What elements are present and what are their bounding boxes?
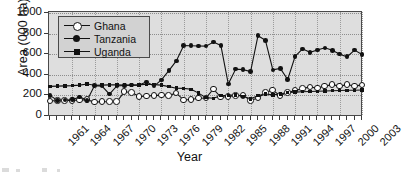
legend-label: Uganda [94,46,131,58]
data-point-tanzania [55,98,60,103]
data-point-ghana [151,92,158,99]
data-point-tanzania [174,59,179,64]
legend-item-ghana: Ghana [63,20,145,32]
data-point-ghana [188,96,195,103]
data-point-tanzania [48,93,53,98]
data-point-tanzania [159,78,164,83]
filled-square-icon [74,49,80,55]
data-point-tanzania [219,43,224,48]
data-point-uganda [123,83,126,86]
data-point-ghana [106,98,113,105]
data-point-uganda [331,89,334,92]
x-tick-mark [86,116,87,120]
x-tick-mark [302,116,303,120]
data-point-tanzania [248,69,253,74]
scan-artifact [2,168,64,173]
data-point-uganda [279,92,282,95]
legend-label: Ghana [94,20,126,32]
x-axis-title: Year [0,150,379,164]
data-point-uganda [249,97,252,100]
data-point-ghana [210,86,217,93]
data-point-tanzania [196,44,201,49]
data-point-ghana [91,99,98,106]
x-tick-mark [227,116,228,120]
y-tick-label: 800 [0,27,42,39]
data-point-uganda [234,93,237,96]
data-point-tanzania [278,66,283,71]
legend-item-tanzania: Tanzania [63,33,145,45]
x-tick-mark [257,116,258,120]
legend: Ghana Tanzania Uganda [58,16,150,58]
data-point-uganda [204,96,207,99]
data-point-ghana [344,81,351,88]
data-point-uganda [85,82,88,85]
data-point-uganda [100,83,103,86]
data-point-tanzania [226,82,231,87]
data-point-uganda [152,83,155,86]
y-tick-label: 1000 [0,6,42,18]
data-point-uganda [160,83,163,86]
data-point-tanzania [285,77,290,82]
data-point-uganda [56,84,59,87]
data-point-tanzania [308,50,313,55]
data-point-tanzania [315,48,320,53]
data-point-uganda [48,85,51,88]
x-tick-label: 1991 [288,122,314,148]
x-tick-label: 1982 [221,122,247,148]
data-point-tanzania [211,40,216,45]
data-point-tanzania [330,48,335,53]
data-point-uganda [353,89,356,92]
data-point-uganda [338,89,341,92]
x-tick-label: 1976 [177,122,203,148]
x-tick-mark [346,116,347,120]
x-tick-label: 1988 [266,122,292,148]
x-tick-label: 1979 [199,122,225,148]
data-point-ghana [180,97,187,104]
x-tick-label: 1961 [65,122,91,148]
data-point-uganda [137,83,140,86]
data-point-uganda [308,90,311,93]
x-tick-mark [79,116,80,120]
data-point-uganda [256,94,259,97]
data-point-tanzania [293,54,298,59]
data-point-uganda [286,91,289,94]
data-point-ghana [136,93,143,100]
x-tick-mark [175,116,176,120]
x-tick-mark [71,116,72,120]
x-tick-label: 1994 [310,122,336,148]
x-tick-mark [331,116,332,120]
x-tick-mark [242,116,243,120]
y-tick-label: 600 [0,47,42,59]
legend-label: Tanzania [94,33,136,45]
x-tick-label: 2000 [355,122,381,148]
data-point-ghana [359,82,366,89]
x-tick-mark [56,116,57,120]
x-tick-mark [131,116,132,120]
x-tick-mark [287,116,288,120]
x-tick-mark [205,116,206,120]
data-point-uganda [219,94,222,97]
data-point-tanzania [360,52,365,57]
y-tick-label: 0 [0,109,42,121]
x-tick-mark [153,116,154,120]
x-tick-mark [272,116,273,120]
x-tick-label: 1970 [132,122,158,148]
data-point-uganda [145,83,148,86]
data-point-ghana [113,98,120,105]
data-point-ghana [143,93,150,100]
x-tick-mark [49,116,50,120]
data-point-uganda [316,90,319,93]
x-tick-mark [123,116,124,120]
data-point-tanzania [85,98,90,103]
x-tick-mark [354,116,355,120]
x-tick-mark [138,116,139,120]
x-tick-label: 1964 [87,122,113,148]
data-point-ghana [165,92,172,99]
x-tick-mark [309,116,310,120]
x-tick-mark [160,116,161,120]
data-point-ghana [99,98,106,105]
x-tick-label: 1997 [333,122,359,148]
data-point-uganda [182,87,185,90]
data-point-uganda [175,86,178,89]
